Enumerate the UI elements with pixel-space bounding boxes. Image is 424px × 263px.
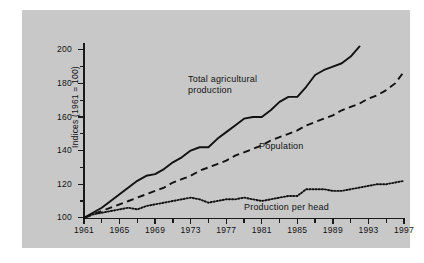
chart-figure: Indices (1961 = 100) 100120140160180200 … [0, 0, 424, 263]
annotation-total-agricultural-production: Total agricultural production [188, 74, 257, 96]
annotation-total-line2: production [188, 85, 257, 96]
annotation-population: Population [259, 141, 304, 152]
annotation-production-per-head: Production per head [244, 202, 329, 213]
series-layer [22, 10, 410, 248]
series-line-total-agricultural-production [84, 46, 360, 217]
chart-panel: Indices (1961 = 100) 100120140160180200 … [22, 10, 410, 248]
annotation-total-line1: Total agricultural [188, 74, 257, 85]
